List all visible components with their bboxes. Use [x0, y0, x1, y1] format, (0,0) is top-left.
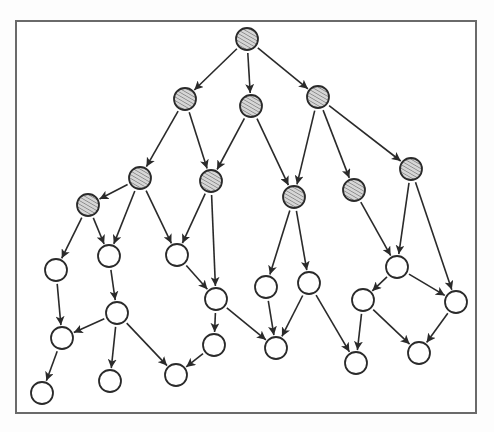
- shaded-node: [240, 95, 262, 117]
- open-node: [98, 245, 120, 267]
- shaded-node: [77, 194, 99, 216]
- open-node: [265, 337, 287, 359]
- open-node: [298, 272, 320, 294]
- open-node: [51, 327, 73, 349]
- shaded-node: [283, 186, 305, 208]
- open-node: [445, 291, 467, 313]
- open-node: [352, 289, 374, 311]
- shaded-node: [343, 179, 365, 201]
- open-node: [345, 352, 367, 374]
- open-node: [255, 276, 277, 298]
- shaded-node: [174, 88, 196, 110]
- open-node: [31, 382, 53, 404]
- shaded-node: [236, 28, 258, 50]
- open-node: [106, 302, 128, 324]
- open-node: [386, 256, 408, 278]
- open-node: [165, 364, 187, 386]
- edge-arrow: [215, 313, 216, 332]
- shaded-node: [200, 170, 222, 192]
- directed-graph: [0, 0, 494, 432]
- shaded-node: [129, 167, 151, 189]
- open-node: [408, 342, 430, 364]
- shaded-node: [400, 158, 422, 180]
- open-node: [45, 259, 67, 281]
- open-node: [205, 288, 227, 310]
- diagram-frame: [16, 21, 476, 413]
- open-node: [99, 370, 121, 392]
- open-node: [166, 244, 188, 266]
- shaded-node: [307, 86, 329, 108]
- diagram-canvas: [0, 0, 494, 432]
- open-node: [203, 334, 225, 356]
